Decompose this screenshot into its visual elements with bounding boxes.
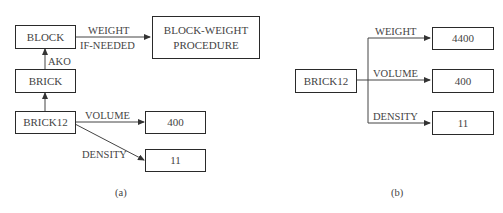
node-brick-label: BRICK <box>29 74 63 89</box>
volume-value-label: 400 <box>167 115 184 130</box>
procedure-line2: PROCEDURE <box>173 38 238 53</box>
edge-label-weight-b: WEIGHT <box>375 27 416 38</box>
weight-value-b-label: 4400 <box>452 31 474 46</box>
node-density-value-b: 11 <box>432 111 494 135</box>
node-density-value: 11 <box>145 149 206 172</box>
node-volume-value: 400 <box>145 111 206 134</box>
node-brick: BRICK <box>15 69 76 93</box>
node-brick12: BRICK12 <box>15 111 76 134</box>
node-brick12-b-label: BRICK12 <box>304 74 349 89</box>
node-block-label: BLOCK <box>27 30 64 45</box>
edge-label-volume: VOLUME <box>85 111 130 122</box>
edge-label-ako: AKO <box>48 57 71 68</box>
caption-a: (a) <box>115 188 127 199</box>
density-value-label: 11 <box>170 153 181 168</box>
edge-label-if-needed: IF-NEEDED <box>80 41 135 52</box>
node-block: BLOCK <box>15 25 76 49</box>
volume-value-b-label: 400 <box>455 74 472 89</box>
node-volume-value-b: 400 <box>432 69 494 93</box>
procedure-line1: BLOCK-WEIGHT <box>164 23 248 38</box>
caption-b: (b) <box>391 188 403 199</box>
node-block-weight-procedure: BLOCK-WEIGHT PROCEDURE <box>152 16 260 59</box>
density-value-b-label: 11 <box>458 116 469 131</box>
node-weight-value-b: 4400 <box>432 27 494 50</box>
node-brick12-b: BRICK12 <box>295 69 357 93</box>
edge-label-density-b: DENSITY <box>373 112 418 123</box>
edge-label-density: DENSITY <box>82 150 127 161</box>
node-brick12-label: BRICK12 <box>23 115 68 130</box>
edge-label-volume-b: VOLUME <box>373 69 418 80</box>
edge-label-weight: WEIGHT <box>88 26 129 37</box>
